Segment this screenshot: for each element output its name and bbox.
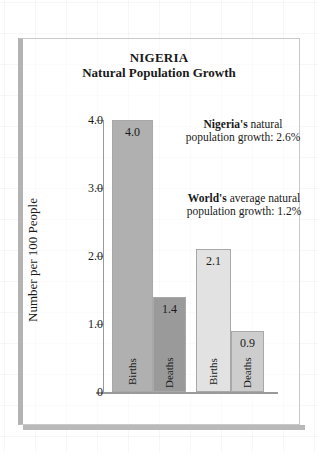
figure-frame-shadow: [23, 425, 305, 430]
annotation-nigeria-lead: Nigeria's: [204, 118, 248, 130]
annotation-world-lead: World's: [188, 192, 227, 204]
figure-frame: [18, 38, 300, 425]
annotation-nigeria: Nigeria's natural population growth: 2.6…: [180, 118, 306, 144]
page-title: NIGERIA: [18, 50, 300, 65]
annotation-world: World's average natural population growt…: [178, 192, 310, 218]
page-subtitle: Natural Population Growth: [18, 65, 300, 80]
